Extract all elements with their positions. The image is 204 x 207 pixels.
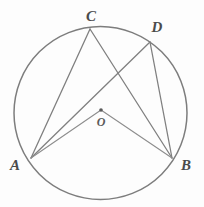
segment-AC	[31, 29, 90, 158]
vertex-label-d: D	[152, 20, 163, 35]
vertex-label-a: A	[10, 158, 20, 173]
circle-geometry-figure: C D A B O	[0, 0, 204, 207]
center-point-dot	[99, 108, 103, 112]
geometry-canvas	[0, 0, 204, 207]
vertex-label-o: O	[97, 116, 106, 128]
segment-OB	[101, 110, 172, 158]
segment-AD	[31, 42, 150, 158]
circle-outline	[14, 27, 187, 200]
vertex-label-c: C	[86, 9, 96, 24]
vertex-label-b: B	[181, 158, 191, 173]
